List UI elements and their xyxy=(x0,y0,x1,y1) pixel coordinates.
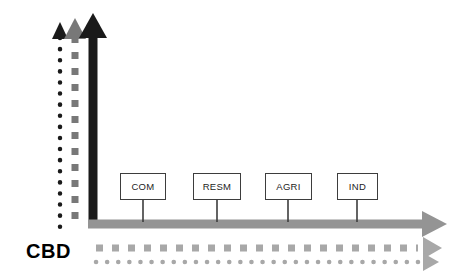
node-box-com[interactable]: COM xyxy=(120,173,166,200)
diagram-vector-layer xyxy=(0,0,460,278)
node-box-agri[interactable]: AGRI xyxy=(265,173,312,200)
node-connectors xyxy=(143,200,357,222)
horizontal-dotted-gray-arrowhead xyxy=(423,253,439,271)
cbd-origin-label: CBD xyxy=(26,241,71,261)
node-box-resm[interactable]: RESM xyxy=(193,173,241,200)
horizontal-axis-dotted-gray xyxy=(96,253,439,271)
horizontal-axis-dashed-gray xyxy=(96,237,442,259)
horizontal-axis-solid-gray xyxy=(88,211,447,237)
node-label-agri: AGRI xyxy=(276,182,300,192)
node-label-com: COM xyxy=(131,182,154,192)
vertical-axis-dotted-black xyxy=(52,22,68,228)
vertical-axis-dashed-gray xyxy=(64,18,86,228)
vertical-solid-black-arrowhead xyxy=(79,13,107,38)
diagram-canvas: COM RESM AGRI IND CBD xyxy=(0,0,460,278)
node-label-ind: IND xyxy=(349,182,366,192)
node-label-resm: RESM xyxy=(203,182,232,192)
horizontal-solid-gray-arrowhead xyxy=(422,211,447,237)
node-box-ind[interactable]: IND xyxy=(337,173,378,200)
vertical-axis-solid-black xyxy=(79,13,107,228)
